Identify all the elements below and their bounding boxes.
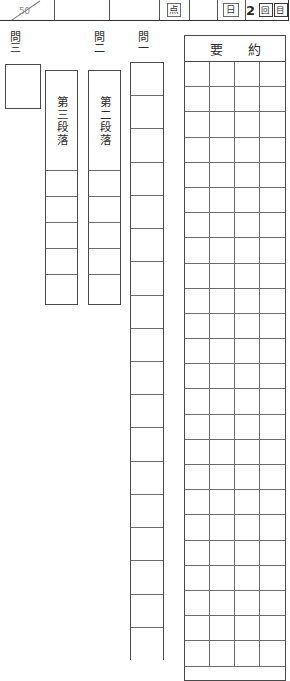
summary-cell[interactable] xyxy=(185,238,210,263)
summary-cell[interactable] xyxy=(260,591,285,616)
summary-cell[interactable] xyxy=(235,541,260,566)
question-1-cell[interactable] xyxy=(131,163,163,196)
summary-cell[interactable] xyxy=(235,616,260,641)
summary-cell[interactable] xyxy=(260,188,285,213)
summary-cell[interactable] xyxy=(235,440,260,465)
question-3-answer-box[interactable] xyxy=(5,64,41,109)
summary-cell[interactable] xyxy=(235,591,260,616)
summary-cell[interactable] xyxy=(235,188,260,213)
summary-cell[interactable] xyxy=(235,389,260,414)
summary-cell[interactable] xyxy=(260,415,285,440)
summary-cell[interactable] xyxy=(260,389,285,414)
summary-cell[interactable] xyxy=(210,490,235,515)
summary-cell[interactable] xyxy=(210,264,235,289)
summary-cell[interactable] xyxy=(210,591,235,616)
summary-cell[interactable] xyxy=(260,339,285,364)
question-1-cell[interactable] xyxy=(131,528,163,561)
summary-cell[interactable] xyxy=(260,465,285,490)
summary-cell[interactable] xyxy=(185,188,210,213)
question-1-cell[interactable] xyxy=(131,229,163,262)
summary-cell[interactable] xyxy=(260,541,285,566)
score-cell[interactable]: 50 xyxy=(0,0,55,20)
question-1-cell[interactable] xyxy=(131,561,163,594)
summary-cell[interactable] xyxy=(210,213,235,238)
summary-cell[interactable] xyxy=(210,364,235,389)
summary-cell[interactable] xyxy=(260,616,285,641)
summary-cell[interactable] xyxy=(185,339,210,364)
summary-cell[interactable] xyxy=(260,264,285,289)
summary-cell[interactable] xyxy=(210,112,235,137)
summary-cell[interactable] xyxy=(210,163,235,188)
summary-cell[interactable] xyxy=(185,541,210,566)
summary-cell[interactable] xyxy=(210,87,235,112)
summary-cell[interactable] xyxy=(235,415,260,440)
summary-cell[interactable] xyxy=(185,163,210,188)
header-blank-cell-2[interactable] xyxy=(110,0,160,20)
summary-cell[interactable] xyxy=(260,515,285,540)
summary-cell[interactable] xyxy=(210,415,235,440)
summary-cell[interactable] xyxy=(210,541,235,566)
summary-cell[interactable] xyxy=(235,364,260,389)
question-1-cell[interactable] xyxy=(131,362,163,395)
summary-cell[interactable] xyxy=(210,188,235,213)
summary-cell[interactable] xyxy=(235,87,260,112)
question-1-cell[interactable] xyxy=(131,296,163,329)
question-1-cell[interactable] xyxy=(131,262,163,295)
summary-cell[interactable] xyxy=(235,138,260,163)
summary-cell[interactable] xyxy=(260,289,285,314)
summary-cell[interactable] xyxy=(185,465,210,490)
question-1-cell[interactable] xyxy=(131,129,163,162)
summary-cell[interactable] xyxy=(210,616,235,641)
summary-cell[interactable] xyxy=(210,289,235,314)
summary-cell[interactable] xyxy=(260,490,285,515)
summary-cell[interactable] xyxy=(210,440,235,465)
summary-cell[interactable] xyxy=(185,566,210,591)
summary-cell[interactable] xyxy=(185,515,210,540)
summary-cell[interactable] xyxy=(260,238,285,263)
summary-cell[interactable] xyxy=(235,314,260,339)
paragraph-2-cell[interactable] xyxy=(89,197,120,223)
summary-cell[interactable] xyxy=(185,62,210,87)
summary-cell[interactable] xyxy=(185,440,210,465)
summary-cell[interactable] xyxy=(185,314,210,339)
paragraph-3-cell[interactable] xyxy=(46,223,77,249)
summary-cell[interactable] xyxy=(185,641,210,666)
summary-cell[interactable] xyxy=(260,163,285,188)
summary-cell[interactable] xyxy=(185,389,210,414)
paragraph-3-cell[interactable] xyxy=(46,197,77,223)
summary-cell[interactable] xyxy=(235,339,260,364)
summary-cell[interactable] xyxy=(185,490,210,515)
header-blank-cell-3[interactable] xyxy=(190,0,218,20)
summary-cell[interactable] xyxy=(210,138,235,163)
summary-cell[interactable] xyxy=(210,566,235,591)
summary-cell[interactable] xyxy=(185,415,210,440)
summary-cell[interactable] xyxy=(235,163,260,188)
summary-cell[interactable] xyxy=(235,465,260,490)
question-1-cell[interactable] xyxy=(131,628,163,661)
paragraph-2-cell[interactable] xyxy=(89,275,120,303)
header-blank-cell-1[interactable] xyxy=(55,0,110,20)
question-1-cell[interactable] xyxy=(131,495,163,528)
paragraph-2-cell[interactable] xyxy=(89,249,120,275)
question-1-cell[interactable] xyxy=(131,63,163,96)
question-1-cell[interactable] xyxy=(131,196,163,229)
summary-cell[interactable] xyxy=(235,641,260,666)
paragraph-3-cell[interactable] xyxy=(46,171,77,197)
summary-cell[interactable] xyxy=(235,289,260,314)
summary-cell[interactable] xyxy=(235,490,260,515)
question-1-cell[interactable] xyxy=(131,96,163,129)
summary-cell[interactable] xyxy=(235,213,260,238)
summary-cell[interactable] xyxy=(210,314,235,339)
summary-cell[interactable] xyxy=(235,62,260,87)
summary-cell[interactable] xyxy=(210,62,235,87)
summary-cell[interactable] xyxy=(235,238,260,263)
summary-cell[interactable] xyxy=(260,87,285,112)
summary-cell[interactable] xyxy=(210,238,235,263)
summary-cell[interactable] xyxy=(185,289,210,314)
summary-cell[interactable] xyxy=(185,616,210,641)
paragraph-2-cell[interactable] xyxy=(89,223,120,249)
summary-cell[interactable] xyxy=(260,138,285,163)
paragraph-3-cell[interactable] xyxy=(46,249,77,275)
summary-cell[interactable] xyxy=(235,264,260,289)
summary-cell[interactable] xyxy=(210,465,235,490)
